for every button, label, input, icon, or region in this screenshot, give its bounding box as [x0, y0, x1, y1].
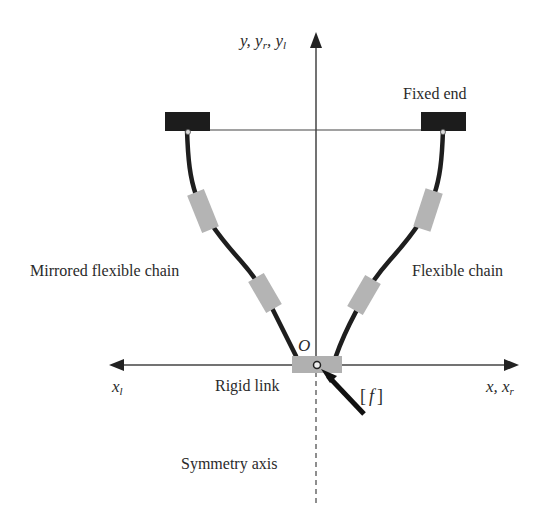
origin-label: O [298, 336, 310, 355]
symmetry-axis-label: Symmetry axis [181, 455, 277, 473]
force-arrow-shaft [328, 376, 364, 414]
x-right-arrow-icon [504, 359, 519, 371]
diagram-canvas: y, yr, yl Fixed end Mirrored flexible ch… [0, 0, 554, 531]
mirrored-chain-label: Mirrored flexible chain [30, 262, 179, 279]
chain-module-right-upper [413, 188, 442, 232]
mirrored-flexible-chain [187, 130, 296, 356]
fixed-end-label: Fixed end [403, 85, 467, 102]
flexible-chain-label: Flexible chain [412, 262, 503, 279]
fixed-joint-left [186, 130, 191, 135]
y-up-arrow-icon [310, 32, 322, 48]
rigid-link-label: Rigid link [215, 377, 279, 395]
chain-module-left-upper [187, 189, 219, 233]
x-left-label: xl [111, 377, 123, 397]
flexible-chain [336, 130, 443, 356]
fixed-joint-right [441, 130, 446, 135]
force-label: [f] [360, 386, 383, 406]
x-left-arrow-icon [109, 359, 124, 371]
origin-joint [314, 362, 321, 369]
x-right-label: x, xr [485, 377, 515, 397]
y-axis-label: y, yr, yl [238, 31, 286, 51]
